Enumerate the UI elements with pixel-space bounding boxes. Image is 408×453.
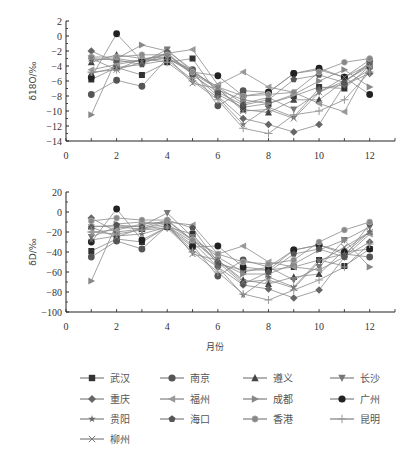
legend-label: 贵阳 — [110, 413, 130, 425]
x-tick-label: 6 — [215, 150, 220, 161]
data-point — [190, 237, 196, 243]
y-tick-label: 2 — [57, 16, 62, 27]
data-point — [315, 107, 323, 115]
data-point — [88, 278, 95, 285]
data-point — [88, 254, 95, 261]
data-point — [264, 296, 272, 304]
data-point — [367, 264, 374, 271]
y-tick-label: −100 — [41, 307, 62, 318]
data-point — [214, 243, 221, 250]
legend-marker-icon — [169, 415, 176, 422]
data-point — [264, 130, 272, 138]
x-tick-label: 2 — [114, 150, 119, 161]
legend: 武汉南京遵义长沙重庆福州成都广州贵阳海口香港昆明柳州 — [80, 372, 380, 445]
y-tick-label: −2 — [51, 46, 62, 57]
legend-item: 重庆 — [80, 393, 130, 405]
legend-marker-icon — [338, 415, 346, 423]
x-tick-label: 4 — [165, 150, 170, 161]
data-point — [88, 218, 94, 224]
series-5 — [91, 50, 369, 112]
data-point — [366, 91, 373, 98]
y-tick-label: −40 — [46, 247, 62, 258]
data-point — [367, 56, 373, 62]
y-axis-label: δD/‰ — [28, 238, 38, 266]
series-1 — [91, 226, 369, 276]
legend-label: 福州 — [190, 393, 210, 405]
data-point — [139, 83, 146, 90]
data-point — [265, 261, 271, 267]
legend-label: 遵义 — [273, 372, 293, 384]
data-point — [240, 93, 246, 99]
series-7 — [91, 209, 369, 270]
data-point — [114, 54, 120, 60]
series-11 — [91, 228, 369, 300]
delta-18o-plot: 20−2−4−6−8−10−12−14024681012δ18O/‰ — [28, 16, 395, 162]
data-point — [139, 42, 146, 49]
legend-label: 武汉 — [110, 372, 130, 384]
y-axis-label: δ18O/‰ — [28, 61, 38, 100]
series-8 — [91, 60, 369, 125]
x-tick-label: 2 — [114, 321, 119, 332]
data-point — [88, 111, 95, 118]
y-tick-label: −12 — [46, 121, 62, 132]
data-point — [190, 69, 196, 75]
data-point — [265, 121, 273, 129]
data-point — [113, 77, 120, 84]
x-tick-label: 10 — [314, 321, 324, 332]
x-tick-label: 6 — [215, 321, 220, 332]
legend-label: 香港 — [273, 414, 293, 425]
y-tick-label: 0 — [57, 31, 62, 42]
legend-label: 南京 — [190, 372, 210, 384]
legend-marker-icon — [338, 395, 345, 402]
x-tick-label: 12 — [365, 321, 375, 332]
data-point — [214, 72, 221, 79]
data-point — [315, 121, 323, 129]
y-tick-label: −80 — [46, 287, 62, 298]
series-markers-8 — [88, 223, 374, 298]
legend-item: 广州 — [330, 394, 380, 405]
legend-item: 遵义 — [243, 372, 293, 384]
legend-label: 柳州 — [110, 433, 130, 445]
legend-item: 武汉 — [80, 372, 130, 384]
data-point — [316, 69, 322, 75]
data-point — [139, 217, 145, 223]
legend-item: 香港 — [243, 414, 293, 425]
data-point — [316, 78, 323, 85]
data-point — [315, 276, 323, 284]
delta-d-plot: 200−20−40−60−80−100024681012δD/‰ — [28, 187, 395, 333]
data-point — [139, 72, 145, 78]
y-tick-label: −4 — [51, 61, 62, 72]
data-point — [290, 277, 297, 284]
series-markers-5 — [88, 46, 373, 115]
series-markers-11 — [87, 55, 373, 138]
data-point — [291, 257, 297, 263]
series-11 — [91, 59, 369, 134]
legend-label: 重庆 — [110, 393, 130, 405]
legend-label: 成都 — [273, 394, 293, 405]
x-tick-label: 4 — [165, 321, 170, 332]
legend-item: 柳州 — [80, 433, 130, 445]
data-point — [239, 243, 246, 250]
legend-item: 福州 — [160, 393, 210, 405]
series-markers-2 — [88, 217, 373, 287]
x-tick-label: 10 — [314, 150, 324, 161]
legend-marker-icon — [168, 395, 175, 402]
data-point — [239, 69, 246, 76]
data-point — [113, 30, 120, 37]
y-tick-label: −14 — [46, 136, 62, 147]
series-markers-7 — [88, 30, 373, 99]
y-tick-label: −6 — [51, 76, 62, 87]
data-point — [290, 294, 298, 302]
y-tick-label: −10 — [46, 106, 62, 117]
data-point — [240, 259, 246, 265]
legend-marker-icon — [88, 395, 96, 403]
data-point — [190, 56, 196, 62]
data-point — [341, 59, 347, 65]
legend-label: 广州 — [360, 394, 380, 405]
legend-item: 南京 — [160, 372, 210, 384]
legend-marker-icon — [252, 395, 259, 402]
legend-item: 贵阳 — [80, 413, 130, 425]
series-8 — [91, 227, 369, 295]
y-tick-label: −20 — [46, 227, 62, 238]
data-point — [341, 227, 347, 233]
